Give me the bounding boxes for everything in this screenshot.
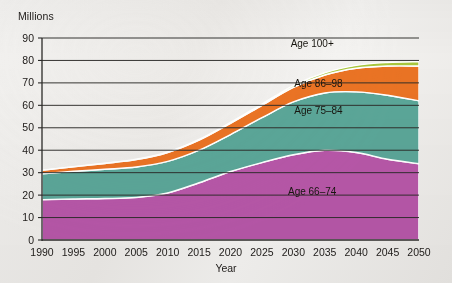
area-bands-group bbox=[42, 62, 419, 240]
x-tick-label-2045: 2045 bbox=[376, 246, 400, 258]
y-tick-label-0: 0 bbox=[28, 234, 34, 246]
band-label-1: Age 100+ bbox=[291, 38, 334, 49]
x-tick-label-2000: 2000 bbox=[93, 246, 117, 258]
chart-figure: Millions 0102030405060708090 19901995200… bbox=[0, 0, 452, 283]
x-tick-label-2050: 2050 bbox=[407, 246, 431, 258]
y-tick-label-30: 30 bbox=[22, 166, 34, 178]
y-axis-tick-labels: 0102030405060708090 bbox=[22, 32, 34, 246]
y-tick-label-50: 50 bbox=[22, 121, 34, 133]
y-tick-label-90: 90 bbox=[22, 32, 34, 44]
x-tick-label-2020: 2020 bbox=[219, 246, 243, 258]
x-tick-label-2030: 2030 bbox=[282, 246, 306, 258]
y-tick-label-60: 60 bbox=[22, 99, 34, 111]
band-label-3: Age 75–84 bbox=[294, 105, 343, 116]
x-tick-label-2040: 2040 bbox=[344, 246, 368, 258]
x-tick-label-2015: 2015 bbox=[187, 246, 211, 258]
band-label-4: Age 66–74 bbox=[288, 186, 337, 197]
x-axis-title: Year bbox=[0, 262, 452, 274]
x-tick-label-1995: 1995 bbox=[62, 246, 86, 258]
y-tick-label-20: 20 bbox=[22, 189, 34, 201]
band-label-2: Age 86–98 bbox=[294, 78, 343, 89]
x-tick-label-2010: 2010 bbox=[156, 246, 180, 258]
x-tick-label-2005: 2005 bbox=[125, 246, 149, 258]
y-tick-label-40: 40 bbox=[22, 144, 34, 156]
x-tick-label-2025: 2025 bbox=[250, 246, 274, 258]
x-tick-label-1990: 1990 bbox=[30, 246, 54, 258]
x-axis-tick-labels: 1990199520002005201020152020202520302035… bbox=[30, 246, 431, 258]
y-tick-label-80: 80 bbox=[22, 54, 34, 66]
stacked-area-chart: 0102030405060708090 19901995200020052010… bbox=[0, 0, 452, 283]
x-tick-label-2035: 2035 bbox=[313, 246, 337, 258]
y-tick-label-70: 70 bbox=[22, 76, 34, 88]
y-tick-label-10: 10 bbox=[22, 211, 34, 223]
